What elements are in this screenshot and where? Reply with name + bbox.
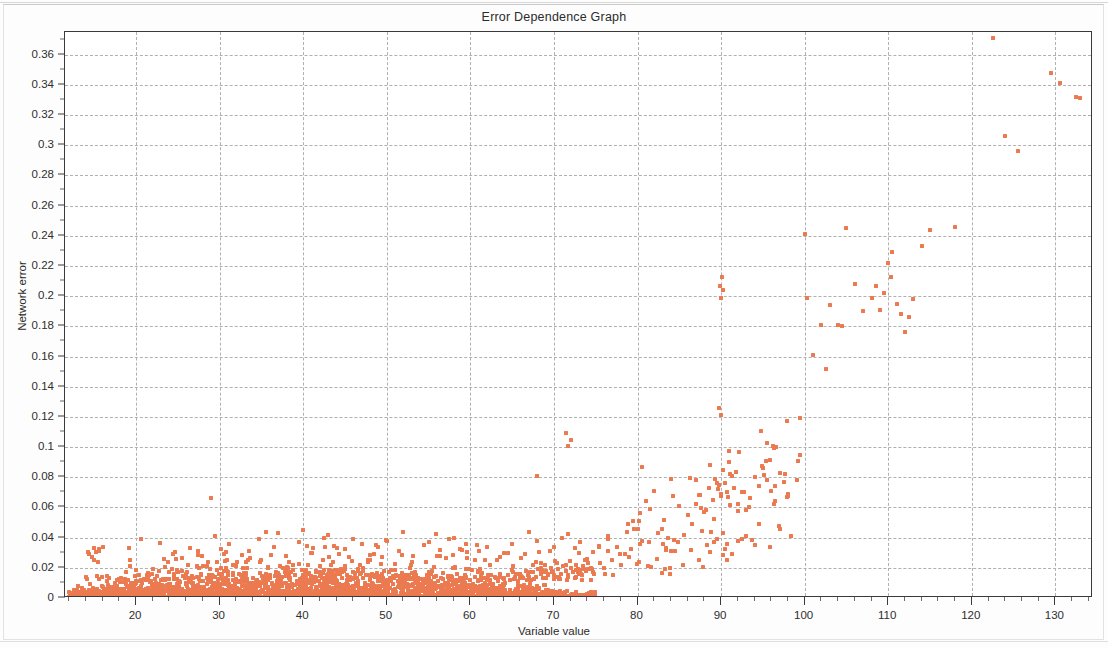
scatter-point [334,585,338,589]
gridline-vertical [136,32,137,596]
scatter-point [331,560,335,564]
scatter-point [223,559,227,563]
scatter-point [637,519,641,523]
scatter-point [632,527,636,531]
gridline-horizontal [65,507,1091,508]
scatter-point [379,576,383,580]
scatter-point [464,542,468,546]
scatter-point [920,244,924,248]
scatter-point [373,584,377,588]
scatter-point [1049,71,1053,75]
scatter-point [528,570,532,574]
scatter-point [668,566,672,570]
x-tick-minor [754,597,755,601]
scatter-point [440,583,444,587]
scatter-point [397,583,401,587]
scatter-point [719,494,723,498]
scatter-point [322,577,326,581]
scatter-point [535,539,539,543]
scatter-point [156,582,160,586]
scatter-point [170,592,174,596]
scatter-point [370,572,374,576]
x-tick-minor [285,597,286,601]
scatter-point [242,591,246,595]
scatter-point [462,584,466,588]
scatter-point [578,540,582,544]
scatter-point [485,545,489,549]
scatter-point [543,563,547,567]
scatter-point [708,463,712,467]
scatter-point [311,546,315,550]
scatter-point [886,261,890,265]
scatter-point [636,527,640,531]
scatter-point [744,534,748,538]
scatter-point [522,585,526,589]
scatter-point [393,562,397,566]
scatter-point [266,566,270,570]
scatter-point [287,583,291,587]
gridline-horizontal [65,538,1091,539]
x-tick-minor [737,597,738,601]
scatter-point [392,576,396,580]
scatter-point [421,584,425,588]
scatter-point [769,489,773,493]
scatter-point [198,585,202,589]
scatter-point [80,586,84,590]
scatter-point [725,558,729,562]
scatter-point [303,570,307,574]
scatter-point [244,576,248,580]
scatter-point [660,571,664,575]
scatter-point [728,503,732,507]
x-tick-mark [553,597,554,605]
scatter-point [162,578,166,582]
scatter-point [283,589,287,593]
scatter-point [249,581,253,585]
scatter-point [503,588,507,592]
y-tick-label: 0.26 [32,199,54,211]
scatter-point [720,275,724,279]
scatter-point [548,549,552,553]
scatter-point [753,475,757,479]
gridline-vertical [721,32,722,596]
scatter-point [511,564,515,568]
x-tick-minor [419,597,420,601]
scatter-point [629,547,633,551]
scatter-point [430,569,434,573]
scatter-point [1058,81,1062,85]
x-tick-label: 90 [714,609,727,621]
scatter-point [789,534,793,538]
x-tick-minor [620,597,621,601]
gridline-horizontal [65,145,1091,146]
scatter-point [451,553,455,557]
scatter-point [427,570,431,574]
scatter-point [874,284,878,288]
scatter-point [483,558,487,562]
scatter-point [686,513,690,517]
scatter-point [889,275,893,279]
scatter-point [796,459,800,463]
scatter-point [205,564,209,568]
scatter-point [759,429,763,433]
y-tick-label: 0.12 [32,410,54,422]
scatter-point [409,577,413,581]
x-tick-minor [988,597,989,601]
scatter-point [740,537,744,541]
scatter-point [331,572,335,576]
scatter-point [368,577,372,581]
scatter-point [690,522,694,526]
scatter-point [598,561,602,565]
scatter-point [175,568,179,572]
scatter-point [694,478,698,482]
scatter-point [564,563,568,567]
scatter-point [631,519,635,523]
scatter-point [148,588,152,592]
scatter-point [240,553,244,557]
scatter-point [506,551,510,555]
x-tick-minor [168,597,169,601]
scatter-point [332,544,336,548]
scatter-point [907,315,911,319]
scatter-point [106,589,110,593]
scatter-point [293,573,297,577]
scatter-point [274,583,278,587]
scatter-point [765,441,769,445]
